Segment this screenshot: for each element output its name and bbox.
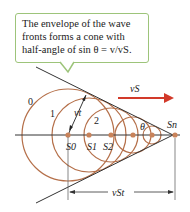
shock-wave-diagram: 0 1 2 vt S0 S1 S2 Sn vS θ vSt [0,0,190,212]
source-label-1: S1 [87,141,97,152]
dim-arrow-right [168,190,174,194]
source-label-n: Sn [167,119,177,130]
velocity-label: vS [130,83,139,94]
wavefront-label-1: 1 [50,108,55,119]
velocity-arrowhead [164,93,174,103]
wavefront-label-0: 0 [28,96,33,107]
source-label-0: S0 [66,141,76,152]
wavefront-label-2: 2 [94,115,99,126]
dim-arrow-left [69,190,75,194]
cone-upper-line [36,67,173,135]
angle-label: θ [140,121,145,132]
distance-label: vSt [112,187,124,198]
vt-label: vt [74,107,81,118]
source-label-2: S2 [103,141,113,152]
callout-pointer [60,62,74,72]
